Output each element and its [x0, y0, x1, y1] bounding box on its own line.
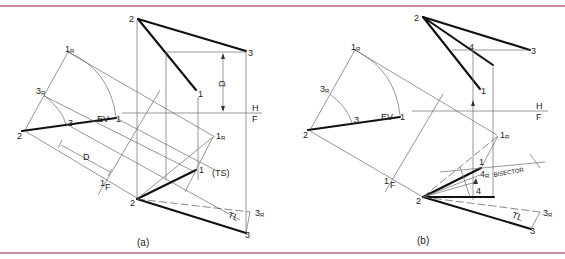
label-front-3r-sub: R	[548, 212, 553, 218]
label-aux-3: 3	[68, 118, 73, 128]
label-ev: EV	[97, 114, 109, 124]
label-front-2: 2	[416, 196, 421, 206]
revolution-arc-1	[355, 50, 400, 115]
revolution-arc-1	[68, 52, 116, 117]
label-top-3: 3	[248, 48, 253, 58]
aux-line-1r-2	[310, 50, 355, 130]
label-aux-2: 2	[17, 131, 22, 141]
label-top-4: 4	[469, 42, 474, 52]
true-length-3r	[423, 197, 540, 212]
label-front-2: 2	[130, 198, 135, 208]
label-fold-f2: F	[390, 180, 396, 190]
label-aux-1: 1	[116, 114, 121, 124]
parallel-1r	[68, 52, 215, 137]
label-dim-d2: D	[83, 152, 90, 162]
fold-line-1f	[385, 94, 443, 192]
label-dim-d: D	[217, 80, 227, 87]
label-front-1r-sub: R	[505, 134, 510, 140]
label-fold-f2: F	[105, 182, 111, 192]
label-aux-2: 2	[303, 130, 308, 140]
edge-2-1	[138, 19, 196, 90]
line-2-4r	[423, 175, 480, 197]
bisector-arc-mark	[530, 154, 540, 168]
edge-2-1	[423, 17, 480, 89]
label-top-3: 3	[531, 46, 536, 56]
label-tl: TL	[227, 210, 240, 223]
label-top-1: 1	[198, 89, 203, 99]
label-front-3: 3	[245, 230, 250, 240]
panel-b-labels: 2 4 3 1 H F 1 R 3 R 3 EV 1 2 1 F 1 R 1 4…	[303, 13, 553, 246]
label-fold-h: H	[252, 103, 259, 113]
panel-a-aux-view	[22, 52, 240, 220]
panel-b-front-view	[423, 136, 545, 229]
edge-2-4	[423, 17, 493, 65]
parallel-2	[310, 131, 423, 197]
label-tl: TL	[511, 210, 524, 223]
label-top-2: 2	[414, 13, 419, 23]
true-length-1r	[423, 136, 498, 197]
panel-a-top-view	[122, 19, 262, 235]
revolution-arc-3	[44, 95, 66, 124]
arrowhead-icon	[221, 106, 225, 112]
arrowhead-icon	[221, 53, 225, 59]
dim-ext-1	[58, 140, 62, 148]
bisector-line	[440, 162, 545, 172]
label-aux-1: 1	[400, 112, 405, 122]
parallel-2	[25, 131, 137, 198]
label-aux-1r-sub: R	[356, 46, 361, 52]
label-front-3: 3	[530, 226, 535, 236]
label-front-1r-sub: R	[221, 135, 226, 141]
arrowhead-icon	[473, 178, 478, 184]
panel-a: 2 3 1 D H F 1 R 3 R 3 EV 1 2 D 1 F 1 R 1…	[17, 14, 265, 248]
figure-canvas: 2 3 1 D H F 1 R 3 R 3 EV 1 2 D 1 F 1 R 1…	[0, 0, 565, 259]
label-top-1: 1	[481, 86, 486, 96]
label-bisector: BISECTOR	[493, 167, 525, 178]
label-fold-f: F	[252, 114, 258, 124]
edge-2-1-front	[137, 170, 196, 199]
label-ev: EV	[381, 112, 393, 122]
arrowhead-icon	[471, 100, 475, 106]
panel-b: 2 4 3 1 H F 1 R 3 R 3 EV 1 2 1 F 1 R 1 4…	[303, 13, 553, 246]
aux-line-1r-2	[25, 52, 68, 130]
parallel-3r	[44, 96, 195, 172]
label-front-4: 4	[476, 186, 481, 196]
label-front-3r-sub: R	[260, 212, 265, 218]
label-fold-h: H	[536, 101, 543, 111]
label-front-4r-sub: R	[485, 173, 490, 179]
label-aux-1r-sub: R	[70, 48, 75, 54]
label-aux-3: 3	[354, 115, 359, 125]
edge-2-3	[138, 19, 246, 51]
fold-line-1f	[98, 90, 160, 195]
label-fold-1: 1	[384, 176, 389, 186]
caption-a: (a)	[137, 237, 149, 248]
label-aux-3r-sub: R	[41, 90, 46, 96]
label-front-1: 1	[199, 165, 204, 175]
label-front-1: 1	[479, 157, 484, 167]
label-fold-f: F	[536, 112, 542, 122]
edge-2-1-front	[423, 168, 481, 197]
label-ts: (TS)	[212, 168, 230, 178]
label-top-2: 2	[129, 14, 134, 24]
label-aux-3r-sub: R	[325, 88, 330, 94]
caption-b: (b)	[417, 235, 429, 246]
revolution-arc-3	[330, 94, 352, 123]
edge-2-3	[423, 17, 530, 50]
